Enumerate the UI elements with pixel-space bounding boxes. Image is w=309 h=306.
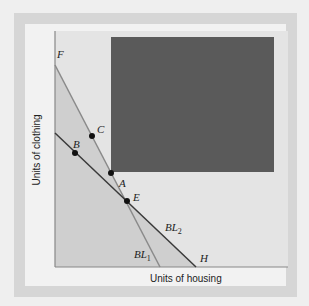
label-f: F	[56, 48, 64, 60]
point-b	[72, 150, 78, 156]
x-axis-label: Units of housing	[150, 273, 222, 284]
point-c	[89, 133, 95, 139]
y-axis-label: Units of clothing	[31, 114, 42, 185]
label-h: H	[199, 252, 209, 264]
label-e: E	[132, 191, 140, 203]
point-e	[124, 198, 130, 204]
budget-line-diagram: F C B A E H BL2 BL1	[0, 0, 309, 306]
label-a: A	[118, 177, 126, 189]
point-a	[108, 170, 114, 176]
label-c: C	[97, 123, 105, 135]
occluded-box	[111, 37, 274, 172]
label-b: B	[73, 138, 80, 150]
